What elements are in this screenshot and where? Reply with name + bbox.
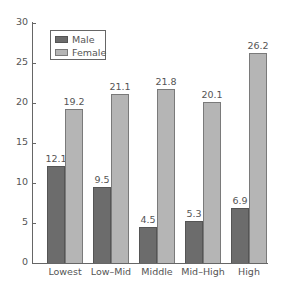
x-axis-line: [32, 263, 268, 264]
y-tick-label: 15: [8, 136, 28, 147]
bar-male: [47, 166, 65, 263]
bar-female: [203, 102, 221, 263]
y-tick: [32, 103, 36, 104]
bar-female: [65, 109, 83, 263]
bar-male: [185, 221, 203, 263]
y-tick-label: 25: [8, 56, 28, 67]
bar-male: [139, 227, 157, 263]
value-label-female: 20.1: [197, 89, 227, 100]
bar-male: [231, 208, 249, 263]
value-label-female: 21.8: [151, 76, 181, 87]
value-label-female: 26.2: [243, 40, 273, 51]
legend-item-female: Female: [55, 46, 106, 58]
x-tick-label: Middle: [132, 266, 182, 277]
legend-swatch-female: [55, 49, 68, 56]
y-tick: [32, 223, 36, 224]
y-tick-label: 30: [8, 16, 28, 27]
x-tick-label: High: [224, 266, 274, 277]
bar-female: [111, 94, 129, 263]
bar-chart: 0 5 10 15 20 25 30 12.119.29.521.14.521.…: [0, 0, 281, 285]
y-tick: [32, 143, 36, 144]
legend-label-female: Female: [72, 47, 106, 58]
y-tick: [32, 23, 36, 24]
x-tick-label: Mid–High: [178, 266, 228, 277]
y-tick-label: 20: [8, 96, 28, 107]
bar-male: [93, 187, 111, 263]
bar-female: [157, 89, 175, 263]
value-label-female: 21.1: [105, 81, 135, 92]
legend-swatch-male: [55, 36, 68, 43]
y-tick: [32, 263, 36, 264]
legend: Male Female: [50, 30, 106, 60]
bar-female: [249, 53, 267, 263]
legend-label-male: Male: [72, 34, 95, 45]
x-tick-label: Low–Mid: [86, 266, 136, 277]
y-tick: [32, 183, 36, 184]
y-tick: [32, 63, 36, 64]
y-tick-label: 5: [8, 216, 28, 227]
value-label-female: 19.2: [59, 96, 89, 107]
y-tick-label: 0: [8, 256, 28, 267]
x-tick-label: Lowest: [40, 266, 90, 277]
legend-item-male: Male: [55, 33, 95, 45]
y-tick-label: 10: [8, 176, 28, 187]
